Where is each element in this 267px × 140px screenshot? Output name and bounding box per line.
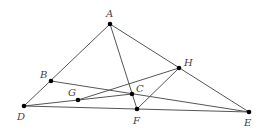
- geometry-diagram: ABCDEFGH: [0, 0, 267, 140]
- label-d: D: [16, 111, 25, 122]
- label-e: E: [243, 117, 252, 128]
- label-b: B: [39, 69, 47, 80]
- labels-group: ABCDEFGH: [16, 8, 252, 128]
- point-d: [22, 104, 27, 109]
- point-g: [76, 98, 81, 103]
- segment-gh: [78, 68, 179, 100]
- label-g: G: [68, 87, 76, 98]
- point-f: [135, 107, 140, 112]
- point-a: [108, 22, 113, 27]
- point-b: [49, 79, 54, 84]
- segments-group: [24, 24, 249, 112]
- point-c: [130, 92, 135, 97]
- points-group: [22, 22, 252, 115]
- point-h: [177, 66, 182, 71]
- label-h: H: [183, 57, 193, 68]
- label-f: F: [132, 115, 141, 126]
- point-e: [247, 110, 252, 115]
- label-a: A: [105, 8, 113, 19]
- label-c: C: [136, 83, 144, 94]
